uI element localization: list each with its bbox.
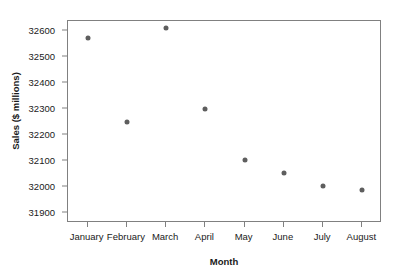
x-tick-label: May: [235, 231, 253, 242]
x-tick-label: April: [195, 231, 214, 242]
x-tick-mark: [283, 222, 284, 227]
x-tick-label: June: [273, 231, 294, 242]
x-tick-label: July: [314, 231, 331, 242]
x-tick-mark: [361, 222, 362, 227]
x-tick-mark: [165, 222, 166, 227]
x-tick-mark: [244, 222, 245, 227]
x-tick-label: March: [152, 231, 178, 242]
x-axis-ticks: JanuaryFebruaryMarchAprilMayJuneJulyAugu…: [0, 0, 413, 278]
x-tick-label: August: [347, 231, 377, 242]
x-tick-mark: [322, 222, 323, 227]
x-tick-mark: [126, 222, 127, 227]
scatter-chart: Sales ($ millions) 319003200032100322003…: [0, 0, 413, 278]
x-tick-label: January: [70, 231, 104, 242]
x-axis-title: Month: [67, 256, 381, 267]
x-tick-mark: [87, 222, 88, 227]
x-tick-label: February: [107, 231, 145, 242]
x-tick-mark: [204, 222, 205, 227]
